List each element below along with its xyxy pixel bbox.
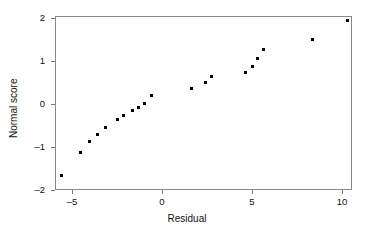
y-axis-title: Normal score	[8, 79, 19, 138]
data-point	[96, 133, 99, 136]
x-tick-label: 10	[322, 197, 362, 207]
data-point	[251, 65, 254, 68]
y-tick-label: 1	[13, 56, 45, 66]
normal-probability-plot-figure: –50510 –2–1012 Residual Normal score	[0, 0, 374, 235]
data-point	[137, 106, 140, 109]
x-tick-mark	[252, 190, 253, 194]
data-point	[204, 81, 207, 84]
y-tick-label: –1	[13, 142, 45, 152]
data-point	[190, 87, 193, 90]
data-point	[256, 57, 259, 60]
data-point	[116, 118, 119, 121]
data-point	[131, 109, 134, 112]
data-point	[262, 48, 265, 51]
y-tick-mark	[51, 190, 55, 191]
y-tick-mark	[51, 104, 55, 105]
data-point	[346, 19, 349, 22]
x-tick-label: –5	[52, 197, 92, 207]
plot-area-frame	[55, 16, 352, 190]
y-tick-label: –2	[13, 185, 45, 195]
data-point	[122, 114, 125, 117]
data-point	[150, 94, 153, 97]
x-tick-mark	[162, 190, 163, 194]
data-point	[311, 38, 314, 41]
x-axis-title: Residual	[0, 213, 374, 224]
x-tick-mark	[72, 190, 73, 194]
y-tick-mark	[51, 18, 55, 19]
x-tick-mark	[342, 190, 343, 194]
data-point	[60, 174, 63, 177]
data-point	[104, 126, 107, 129]
x-tick-label: 0	[142, 197, 182, 207]
data-point	[88, 140, 91, 143]
data-point	[244, 71, 247, 74]
y-tick-label: 2	[13, 13, 45, 23]
x-tick-label: 5	[232, 197, 272, 207]
y-tick-mark	[51, 147, 55, 148]
data-point	[143, 102, 146, 105]
data-point	[210, 75, 213, 78]
y-tick-mark	[51, 61, 55, 62]
data-point	[79, 151, 82, 154]
